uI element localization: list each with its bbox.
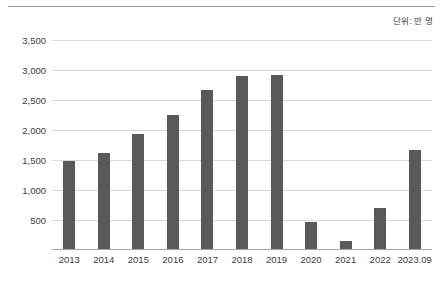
bar[interactable]	[409, 150, 421, 250]
y-axis-tick-label: 3,000	[22, 65, 46, 76]
bar[interactable]	[374, 208, 386, 250]
bar-slot	[225, 40, 260, 250]
y-axis-tick-label: 500	[30, 215, 46, 226]
top-divider	[8, 6, 435, 7]
bar-slot	[328, 40, 363, 250]
bar-slot	[121, 40, 156, 250]
bar[interactable]	[98, 153, 110, 250]
bar[interactable]	[167, 115, 179, 250]
y-axis-labels: 5001,0001,5002,0002,5003,0003,500	[0, 40, 46, 250]
x-axis-tick-label: 2017	[197, 254, 218, 265]
bar-slot	[397, 40, 432, 250]
x-axis-tick-label: 2023.09	[398, 254, 432, 265]
y-axis-tick-label: 1,500	[22, 155, 46, 166]
bar[interactable]	[132, 134, 144, 250]
x-axis-tick-label: 2021	[335, 254, 356, 265]
y-axis-tick-label: 2,500	[22, 95, 46, 106]
x-axis-tick-label: 2013	[59, 254, 80, 265]
y-axis-tick-label: 3,500	[22, 35, 46, 46]
bar[interactable]	[305, 222, 317, 250]
bar-slot	[87, 40, 122, 250]
x-axis-tick-label: 2019	[266, 254, 287, 265]
bar[interactable]	[236, 76, 248, 250]
bar-series	[52, 40, 432, 250]
bar-slot	[259, 40, 294, 250]
x-axis-tick-label: 2015	[128, 254, 149, 265]
y-axis-tick-label: 2,000	[22, 125, 46, 136]
x-axis-tick-label: 2014	[93, 254, 114, 265]
plot-area	[52, 40, 432, 250]
bar[interactable]	[271, 75, 283, 250]
y-axis-tick-label: 1,000	[22, 185, 46, 196]
bar-slot	[156, 40, 191, 250]
bar[interactable]	[201, 90, 213, 250]
x-axis-tick-label: 2022	[370, 254, 391, 265]
x-axis-tick-label: 2016	[162, 254, 183, 265]
bar[interactable]	[63, 161, 75, 250]
bar-chart: 단위: 만 명 5001,0001,5002,0002,5003,0003,50…	[0, 0, 443, 290]
x-axis-tick-label: 2020	[301, 254, 322, 265]
x-axis-line	[52, 249, 432, 251]
bar-slot	[190, 40, 225, 250]
x-axis-tick-label: 2018	[231, 254, 252, 265]
unit-caption: 단위: 만 명	[393, 14, 433, 26]
bar-slot	[52, 40, 87, 250]
bar-slot	[363, 40, 398, 250]
x-axis-labels: 2013201420152016201720182019202020212022…	[52, 252, 432, 272]
bar-slot	[294, 40, 329, 250]
